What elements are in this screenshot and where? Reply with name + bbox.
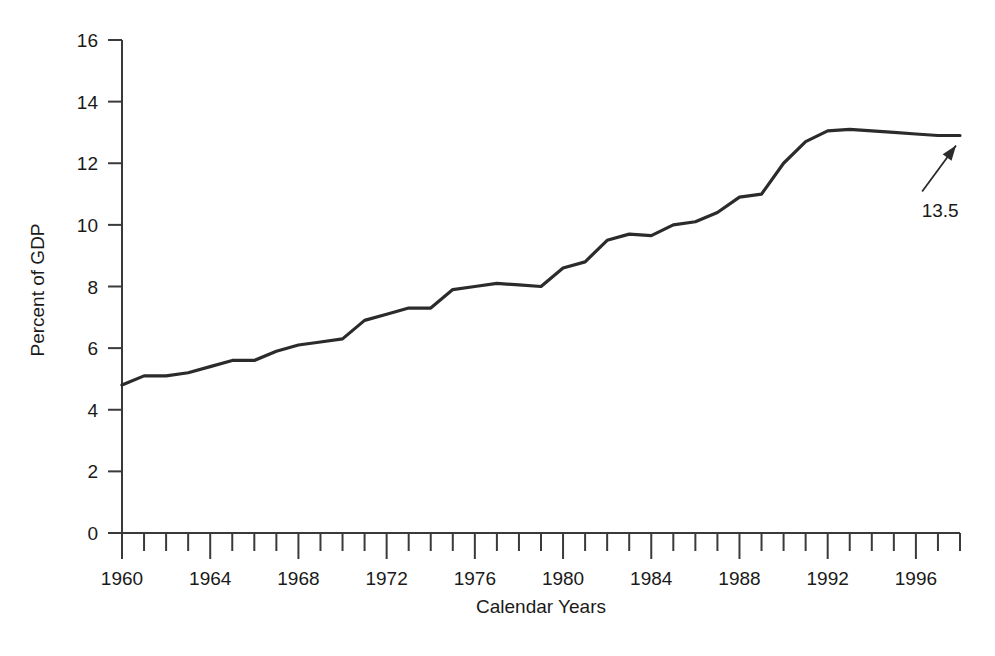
series-path — [122, 129, 960, 385]
chart-container: 0246810121416 19601964196819721976198019… — [0, 0, 995, 656]
data-series-line — [122, 129, 960, 385]
y-tick-label: 12 — [77, 153, 98, 174]
y-axis: 0246810121416 — [77, 30, 122, 544]
y-tick-label: 16 — [77, 30, 98, 51]
x-tick-label: 1996 — [895, 568, 937, 589]
x-axis: 1960196419681972197619801984198819921996 — [101, 533, 960, 589]
y-tick-label: 10 — [77, 215, 98, 236]
annotation-value-label: 13.5 — [922, 200, 959, 221]
y-tick-label: 4 — [87, 400, 98, 421]
x-tick-label: 1976 — [454, 568, 496, 589]
x-tick-label: 1960 — [101, 568, 143, 589]
y-tick-label: 14 — [77, 92, 99, 113]
y-tick-label: 8 — [87, 277, 98, 298]
y-tick-label: 0 — [87, 523, 98, 544]
line-chart: 0246810121416 19601964196819721976198019… — [0, 0, 995, 656]
x-tick-label: 1984 — [630, 568, 673, 589]
annotation-13-5: 13.5 — [922, 146, 959, 222]
y-tick-label: 2 — [87, 461, 98, 482]
x-tick-label: 1972 — [365, 568, 407, 589]
x-tick-label: 1992 — [807, 568, 849, 589]
annotation-arrow-head — [943, 146, 956, 161]
x-axis-title: Calendar Years — [476, 596, 606, 617]
y-tick-label: 6 — [87, 338, 98, 359]
x-tick-label: 1964 — [189, 568, 232, 589]
y-axis-title: Percent of GDP — [27, 223, 48, 356]
x-tick-label: 1980 — [542, 568, 584, 589]
x-tick-label: 1988 — [718, 568, 760, 589]
x-tick-label: 1968 — [277, 568, 319, 589]
